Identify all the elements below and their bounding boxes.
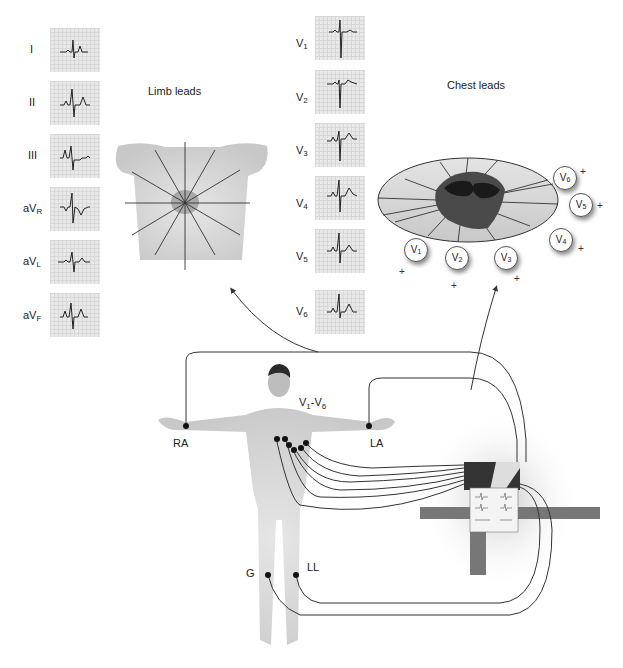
ecg-trace-icon xyxy=(327,233,357,263)
ecg-trace-icon xyxy=(60,146,90,170)
chest-leads-title: Chest leads xyxy=(447,79,505,91)
ecg-tile-V2 xyxy=(315,70,365,114)
limb-arrow xyxy=(232,290,318,352)
electrode-la-icon xyxy=(366,423,372,429)
ecg-tile-I xyxy=(50,28,100,72)
ecg-recorder xyxy=(420,462,600,575)
electrode-ra-icon xyxy=(183,423,189,429)
cable-ra xyxy=(186,352,526,462)
ecg-tile-V1 xyxy=(315,16,365,60)
ecg-tile-aVF xyxy=(50,293,100,337)
plus-V3: + xyxy=(514,273,520,284)
ecg-tile-aVR xyxy=(50,187,100,231)
limb-leads-title: Limb leads xyxy=(148,85,201,97)
cable-la xyxy=(369,378,517,462)
plus-V2: + xyxy=(451,280,457,291)
ecg-tile-V3 xyxy=(315,123,365,167)
limb-leads-torso xyxy=(116,142,268,270)
chest-leads-disc xyxy=(378,158,558,242)
electrodes xyxy=(183,423,372,578)
plus-V6: + xyxy=(580,166,586,177)
ecg-trace-icon xyxy=(60,193,90,223)
ecg-trace-icon xyxy=(327,294,357,318)
ecg-trace-icon xyxy=(60,89,90,117)
ecg-tile-V6 xyxy=(315,290,365,334)
lead-label-aVR: aVR xyxy=(23,202,53,216)
electrode-cables xyxy=(186,352,552,615)
badge-V6: V6 xyxy=(553,166,577,190)
ecg-tile-V4 xyxy=(315,176,365,220)
electrode-ll-icon xyxy=(293,572,299,578)
heart-cross-section-icon xyxy=(435,172,505,229)
ecg-trace-icon xyxy=(60,40,88,58)
electrode-v2-icon xyxy=(282,436,288,442)
chest-arrow xyxy=(471,288,496,390)
ecg-trace-icon xyxy=(327,180,357,212)
electrode-g-icon xyxy=(265,572,271,578)
ecg-tile-V5 xyxy=(315,229,365,273)
electrode-label-ll: LL xyxy=(307,561,319,573)
ecg-trace-icon xyxy=(327,131,357,161)
electrode-label-g: G xyxy=(246,567,255,579)
plus-V4: + xyxy=(578,243,584,254)
badge-V1: V1 xyxy=(404,238,428,262)
lead-label-aVL: aVL xyxy=(23,255,53,269)
electrode-v4-icon xyxy=(291,447,297,453)
badge-V2: V2 xyxy=(445,246,469,270)
electrode-label-v1-v6: V1-V6 xyxy=(299,396,326,411)
lead-label-aVF: aVF xyxy=(23,309,53,323)
ecg-tile-II xyxy=(50,81,100,125)
plus-V1: + xyxy=(399,266,405,277)
ecg-tile-III xyxy=(50,134,100,178)
ecg-tile-aVL xyxy=(50,240,100,284)
ecg-trace-icon xyxy=(329,20,357,58)
patient-figure xyxy=(158,364,395,645)
plus-V5: + xyxy=(597,200,603,211)
electrode-v1-icon xyxy=(274,436,280,442)
badge-V5: V5 xyxy=(569,193,593,217)
ecg-trace-icon xyxy=(60,303,88,329)
cable-ll xyxy=(296,487,540,603)
electrode-v3-icon xyxy=(286,442,292,448)
heart-icon xyxy=(171,190,199,214)
electrode-label-ra: RA xyxy=(173,437,188,449)
badge-V4: V4 xyxy=(549,228,573,252)
ecg-trace-icon xyxy=(327,80,357,108)
electrode-label-la: LA xyxy=(370,437,383,449)
electrode-v6-icon xyxy=(303,440,309,446)
electrode-v5-icon xyxy=(298,445,304,451)
ecg-trace-icon xyxy=(58,252,90,272)
cable-g xyxy=(268,484,552,615)
badge-V3: V3 xyxy=(494,246,518,270)
